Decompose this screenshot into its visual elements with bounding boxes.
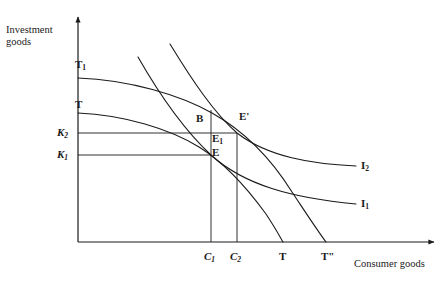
x-axis-title: Consumer goods — [354, 258, 425, 270]
point-label-b: B — [196, 112, 203, 124]
curve-label-i2: I2 — [361, 159, 369, 171]
y-axis-title-line2: goods — [6, 36, 31, 48]
curve-label-i1: I1 — [361, 197, 369, 209]
y-axis-title-line1: Investment — [6, 24, 53, 36]
economics-diagram-figure: Investment goods Consumer goods T1 T I2 … — [0, 0, 447, 289]
diagram-canvas — [0, 0, 447, 289]
curve-transformation-t — [78, 113, 283, 242]
x-tick-label-c1-subscript: 1 — [211, 255, 215, 264]
curve-label-i1-subscript: 1 — [365, 202, 369, 211]
y-tick-label-k1-subscript: 1 — [64, 153, 68, 162]
x-tick-label-c2: C2 — [230, 250, 241, 262]
point-label-e1-subscript: 1 — [219, 137, 223, 146]
curve-indifference-i2 — [170, 44, 356, 166]
curve-label-t: T — [75, 98, 82, 110]
curve-label-t1-subscript: 1 — [82, 63, 86, 72]
y-tick-label-k2-subscript: 2 — [64, 131, 68, 140]
x-tick-label-t: T — [279, 250, 286, 262]
point-label-e: E — [212, 146, 219, 158]
y-tick-label-k1: K1 — [57, 148, 68, 160]
x-tick-label-c1: C1 — [204, 250, 215, 262]
point-label-e1: E1 — [212, 132, 223, 144]
x-tick-label-t-double-prime: T" — [321, 250, 334, 262]
x-tick-label-c2-subscript: 2 — [237, 255, 241, 264]
curve-transformation-t1 — [78, 78, 326, 242]
curve-label-t1: T1 — [75, 58, 86, 70]
point-label-e-prime: E' — [239, 110, 249, 122]
curve-label-i2-subscript: 2 — [365, 164, 369, 173]
curve-indifference-i1 — [138, 57, 356, 204]
y-tick-label-k2: K2 — [57, 126, 68, 138]
